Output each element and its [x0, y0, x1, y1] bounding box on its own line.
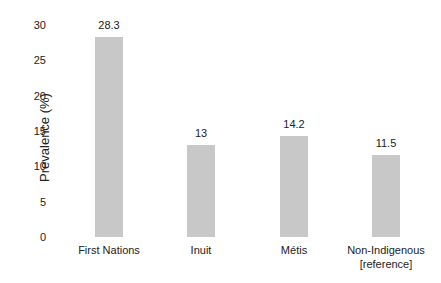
y-axis-label: Prevalence (%)	[37, 88, 52, 188]
y-tick: 0	[26, 231, 46, 243]
bar-metis	[280, 136, 308, 237]
bar-inuit	[187, 145, 215, 237]
category-label: Métis	[244, 243, 344, 257]
y-tick: 25	[26, 54, 46, 66]
category-label: First Nations	[59, 243, 159, 257]
bar-non-indigenous	[372, 155, 400, 237]
category-label-sub: [reference]	[336, 257, 436, 271]
y-tick: 10	[26, 160, 46, 172]
y-tick: 30	[26, 19, 46, 31]
value-label: 28.3	[79, 19, 139, 31]
value-label: 13	[171, 127, 231, 139]
value-label: 14.2	[264, 118, 324, 130]
y-tick: 15	[26, 125, 46, 137]
value-label: 11.5	[356, 137, 416, 149]
y-tick: 20	[26, 90, 46, 102]
y-tick: 5	[26, 196, 46, 208]
category-label: Non-Indigenous	[336, 243, 436, 257]
category-label: Inuit	[151, 243, 251, 257]
bar-first-nations	[95, 37, 123, 237]
